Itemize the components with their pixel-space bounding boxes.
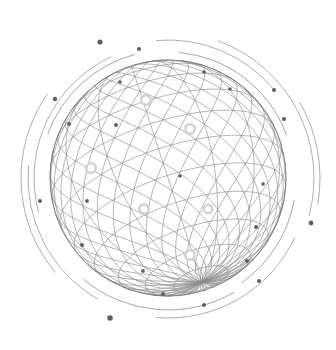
globe-wireframe <box>50 60 286 296</box>
wireframe-line <box>52 110 275 199</box>
node-dot <box>118 80 122 84</box>
orbit-arc <box>34 57 111 213</box>
wireframe-line <box>152 61 218 282</box>
wireframe-line <box>77 253 202 282</box>
node-dot <box>261 182 265 186</box>
glow-node <box>140 205 149 214</box>
orbit-arc <box>218 41 314 216</box>
node-dot <box>272 88 276 92</box>
glow-node <box>204 205 212 213</box>
node-dot <box>38 199 42 203</box>
glow-node <box>87 164 96 173</box>
node-dot <box>228 87 232 91</box>
node-dot <box>202 303 206 307</box>
node-dot <box>114 123 118 127</box>
node-dot <box>85 199 89 203</box>
node-dot <box>80 243 84 247</box>
node-dot <box>97 39 102 44</box>
globe-graphic <box>0 0 336 350</box>
node-dot <box>202 70 206 74</box>
node-dot <box>254 225 258 229</box>
node-dot <box>309 221 314 226</box>
node-dot <box>53 97 57 101</box>
orbit-arcs <box>21 40 320 318</box>
wireframe-line <box>51 90 89 161</box>
wireframe-line <box>64 234 202 283</box>
wireframe-line <box>50 171 203 282</box>
node-dot <box>257 279 261 283</box>
node-dot <box>161 292 165 296</box>
node-dot <box>245 259 249 263</box>
node-dot <box>141 269 145 273</box>
node-dot <box>137 47 141 51</box>
wireframe-line <box>50 89 257 169</box>
wireframe-line <box>71 64 202 293</box>
wireframe-line <box>180 61 253 96</box>
wireframe-line <box>53 151 206 283</box>
node-dots <box>38 39 313 320</box>
orbit-arc <box>156 40 274 89</box>
node-dot <box>107 315 113 321</box>
node-dot <box>282 117 286 121</box>
globe-illustration <box>0 0 336 350</box>
wireframe-line <box>61 67 202 295</box>
glow-node <box>186 125 195 134</box>
node-dot <box>178 174 182 178</box>
orbit-arc <box>300 102 320 204</box>
glow-node <box>142 96 151 105</box>
node-dot <box>67 122 71 126</box>
glow-node <box>186 251 195 260</box>
